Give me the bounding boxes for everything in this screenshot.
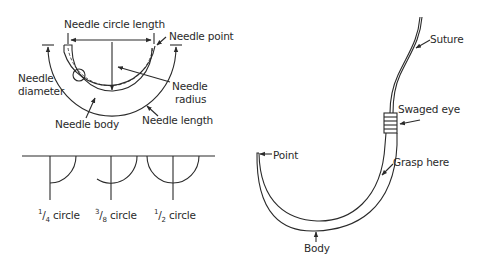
label-needle-body: Needle body	[55, 118, 119, 130]
label-needle-diameter-1: Needle	[18, 72, 54, 84]
label-half-circle: 1/2 circle	[154, 206, 196, 226]
label-grasp-here: Grasp here	[393, 156, 449, 168]
label-needle-circle-length: Needle circle length	[64, 18, 165, 30]
needle-anatomy-diagram	[42, 33, 182, 118]
label-needle-radius-2: radius	[175, 93, 206, 105]
label-point: Point	[273, 149, 298, 161]
label-suture: Suture	[430, 33, 463, 45]
label-needle-radius-1: Needle	[172, 80, 208, 92]
label-swaged-eye: Swaged eye	[398, 103, 460, 115]
label-three-eighths-circle: 3/8 circle	[95, 206, 137, 226]
diagram-canvas	[0, 0, 477, 268]
label-quarter-circle: 1/4 circle	[38, 206, 80, 226]
circle-types-diagram	[22, 156, 215, 200]
label-needle-diameter-2: diameter	[18, 85, 64, 97]
label-body: Body	[304, 242, 330, 254]
swaged-needle-diagram	[257, 17, 430, 242]
label-needle-length: Needle length	[142, 114, 213, 126]
label-needle-point: Needle point	[169, 30, 234, 42]
